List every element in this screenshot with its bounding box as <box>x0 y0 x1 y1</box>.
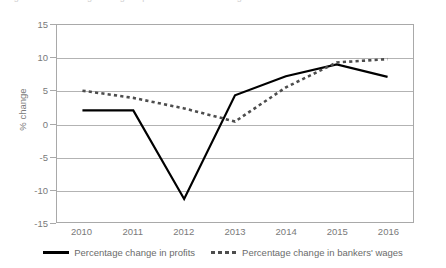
legend-label-profits: Percentage change in profits <box>74 247 195 258</box>
x-axis-tick-label: 2012 <box>173 226 194 237</box>
x-axis-tick-label: 2010 <box>71 226 92 237</box>
legend-item-bankers-wages: Percentage change in bankers' wages <box>211 247 403 258</box>
y-axis-tick-label: 10 <box>2 52 48 63</box>
y-axis-tick-label: -10 <box>2 184 48 195</box>
y-axis-tick-mark <box>50 223 56 224</box>
figure-caption-text: Figure 1.4 Percentage change in profits … <box>6 0 292 2</box>
legend-swatch-solid-icon <box>43 251 69 254</box>
chart-figure: Figure 1.4 Percentage change in profits … <box>0 0 446 268</box>
y-axis-tick-label: 15 <box>2 19 48 30</box>
series-line-bankers-wages <box>82 59 387 121</box>
plot-area <box>56 24 414 223</box>
series-line-profits <box>82 64 387 199</box>
legend-item-profits: Percentage change in profits <box>43 247 195 258</box>
data-series-layer <box>57 25 413 222</box>
x-axis-tick-label: 2011 <box>122 226 142 237</box>
figure-caption-clipped: Figure 1.4 Percentage change in profits … <box>0 0 446 9</box>
x-axis-tick-label: 2016 <box>378 226 399 237</box>
legend-swatch-dashed-icon <box>211 251 237 254</box>
y-axis-tick-label: -15 <box>2 218 48 229</box>
y-axis-tick-label: -5 <box>2 151 48 162</box>
chart-legend: Percentage change in profits Percentage … <box>0 247 446 258</box>
y-axis-label: % change <box>17 70 28 150</box>
x-axis-tick-label: 2014 <box>276 226 297 237</box>
x-axis-tick-label: 2015 <box>327 226 348 237</box>
legend-label-bankers-wages: Percentage change in bankers' wages <box>242 247 403 258</box>
x-axis-tick-label: 2013 <box>224 226 245 237</box>
